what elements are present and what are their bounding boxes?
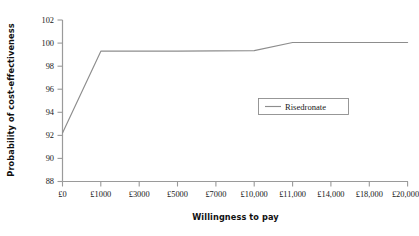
y-tick-label-0: 88 [46,177,54,186]
x-tick-label-4: £7000 [205,190,226,199]
x-tick-label-6: £11,000 [279,190,306,199]
y-tick-label-6: 100 [41,39,54,48]
y-tick-label-4: 96 [46,85,54,94]
chart-figure: 88 90 92 94 96 98 100 102 £0 £1000 £30 [0,0,419,236]
y-tick-label-5: 98 [46,62,54,71]
x-tick-label-0: £0 [58,190,66,199]
cost-effectiveness-acceptability-chart: 88 90 92 94 96 98 100 102 £0 £1000 £30 [0,0,419,236]
legend: Risedronate [259,99,349,115]
x-tick-label-3: £5000 [167,190,188,199]
y-tick-label-3: 94 [46,108,55,117]
x-tick-label-8: £18,000 [356,190,383,199]
legend-label-risedronate: Risedronate [285,102,326,112]
y-axis-title: Probability of cost-effectiveness [6,23,16,176]
y-tick-label-2: 92 [46,131,54,140]
y-tick-label-7: 102 [41,16,54,25]
x-axis-title: Willingness to pay [192,212,279,222]
x-tick-label-5: £10,000 [241,190,268,199]
x-tick-label-2: £3000 [129,190,150,199]
x-tick-label-7: £14,000 [317,190,344,199]
x-tick-label-9: £20,000 [392,190,419,199]
x-tick-label-1: £1000 [90,190,111,199]
y-tick-label-1: 90 [46,154,54,163]
